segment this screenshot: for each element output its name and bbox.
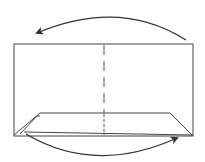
bottom-arrow bbox=[26, 134, 177, 156]
flap-bottom-edge bbox=[24, 132, 193, 135]
folding-diagram bbox=[0, 0, 205, 162]
paper-rectangle bbox=[14, 44, 193, 136]
top-arrow bbox=[37, 17, 186, 40]
flap-inner-edge bbox=[20, 116, 40, 134]
